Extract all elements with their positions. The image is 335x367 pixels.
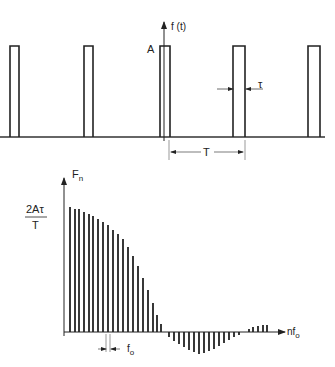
- peak-label-numerator: 2Aτ: [26, 203, 44, 215]
- period-label: T: [203, 146, 210, 158]
- tau-label: τ: [258, 78, 263, 90]
- peak-label-denominator: T: [32, 219, 39, 231]
- pulse: [10, 46, 19, 137]
- f-t-label: f (t): [171, 21, 186, 32]
- pulse: [84, 46, 93, 137]
- pulse-train: f (t) A τ T: [0, 21, 325, 160]
- fourier-diagram: f (t) A τ T Fn 2Aτ T nfo fo: [0, 0, 335, 367]
- amplitude-label: A: [147, 43, 155, 55]
- nfo-label: nfo: [287, 326, 300, 340]
- fn-label: Fn: [72, 168, 83, 183]
- fo-label: fo: [127, 343, 135, 357]
- pulse: [233, 46, 245, 137]
- pulse: [308, 46, 320, 137]
- pulse: [160, 46, 170, 137]
- pulses: [10, 46, 320, 137]
- spectrum: Fn 2Aτ T nfo fo: [25, 168, 300, 357]
